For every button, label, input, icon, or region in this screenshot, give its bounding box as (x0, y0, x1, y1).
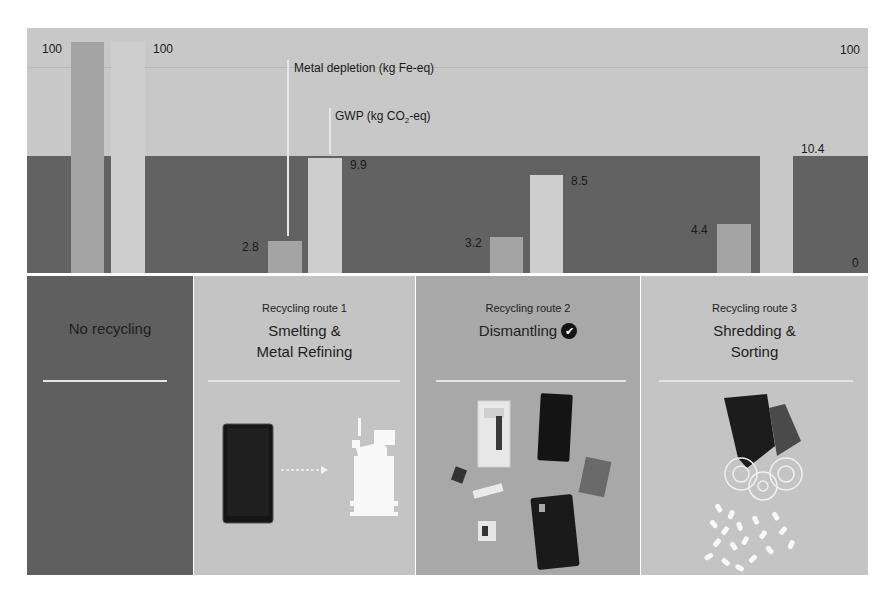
bar-route1-metal (268, 241, 302, 273)
value-route3-gwp: 10.4 (801, 142, 824, 156)
title-line1: Smelting & (194, 320, 415, 341)
axis-label-top: 100 (840, 43, 860, 57)
battery-icon (579, 457, 612, 498)
panel-subtitle: Recycling route 1 (194, 302, 415, 314)
panel-title: Dismantling✔ (416, 320, 640, 341)
phone-icon (724, 394, 775, 468)
panel-route1: Recycling route 1 Smelting & Metal Refin… (194, 276, 415, 575)
component-icon (478, 521, 496, 541)
gridline-100 (27, 67, 868, 68)
phone-screen-icon (537, 393, 572, 462)
legend-metal-depletion: Metal depletion (kg Fe-eq) (294, 61, 434, 75)
recycling-panels: No recycling Recycling route 1 Smelting … (27, 276, 868, 575)
divider (659, 380, 853, 382)
panel-subtitle: Recycling route 2 (416, 302, 640, 314)
value-route1-gwp: 9.9 (350, 158, 367, 172)
divider (43, 380, 167, 382)
bar-route3-metal (717, 224, 751, 273)
axis-label-bottom: 0 (852, 256, 859, 270)
panel-title: Shredding & Sorting (641, 320, 868, 362)
furnace-icon (350, 418, 398, 516)
leader-line-gwp (329, 108, 331, 154)
legend-gwp-suffix: -eq) (409, 109, 430, 123)
legend-metal-text: Metal depletion (kg Fe-eq) (294, 61, 434, 75)
divider (208, 380, 400, 382)
component-icon (451, 466, 467, 483)
dismantled-phone-illustration (416, 386, 640, 575)
value-route2-metal: 3.2 (465, 236, 482, 250)
panel-no-recycling: No recycling (27, 276, 193, 575)
phone-icon (769, 404, 801, 456)
title-line2: Sorting (641, 341, 868, 362)
bar-route3-gwp (760, 156, 793, 273)
smelting-illustration (194, 386, 415, 575)
legend-gwp-text: GWP (kg CO (335, 109, 405, 123)
shredding-illustration (641, 386, 868, 575)
check-circle-icon: ✔ (561, 323, 577, 339)
title-line2: Metal Refining (194, 341, 415, 362)
bar-no-recycling-metal (71, 42, 104, 273)
title-line1: Shredding & (641, 320, 868, 341)
panel-title: Smelting & Metal Refining (194, 320, 415, 362)
leader-line-metal (287, 60, 289, 236)
phone-icon (223, 424, 273, 523)
dashed-arrow-icon (281, 466, 328, 474)
value-route1-metal: 2.8 (242, 240, 259, 254)
panel-route2: Recycling route 2 Dismantling✔ (416, 276, 640, 575)
phone-frame-icon (478, 401, 510, 467)
value-route3-metal: 4.4 (691, 223, 708, 237)
gear-icon (725, 458, 802, 500)
value-no-recycling-metal: 100 (42, 42, 62, 56)
impact-bar-chart: 100 100 2.8 9.9 3.2 8.5 4.4 10.4 100 0 M… (27, 28, 868, 273)
component-icon (472, 483, 503, 498)
bar-route2-metal (490, 237, 523, 273)
bar-route1-gwp (308, 158, 342, 273)
panel-route3: Recycling route 3 Shredding & Sorting (641, 276, 868, 575)
divider (436, 380, 626, 382)
value-no-recycling-gwp: 100 (153, 42, 173, 56)
bar-no-recycling-gwp (111, 42, 145, 273)
bar-route2-gwp (530, 175, 563, 273)
title-text: Dismantling (479, 322, 557, 339)
phone-back-cover-icon (530, 494, 579, 570)
panel-subtitle: Recycling route 3 (641, 302, 868, 314)
shredded-particles-icon (704, 503, 796, 572)
panel-title: No recycling (27, 318, 193, 339)
legend-gwp: GWP (kg CO2-eq) (335, 109, 431, 125)
value-route2-gwp: 8.5 (571, 174, 588, 188)
